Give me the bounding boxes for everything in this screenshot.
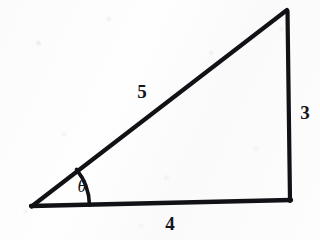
theta-angle-label: θ — [78, 177, 87, 195]
vertical-leg-label: 3 — [300, 103, 310, 122]
base-leg-label: 4 — [165, 214, 175, 233]
triangle-figure: 5 3 4 θ — [0, 0, 320, 240]
hypotenuse-line — [32, 10, 288, 207]
vertical-leg-line — [288, 11, 291, 201]
base-leg-line — [31, 200, 291, 206]
hypotenuse-label: 5 — [137, 82, 147, 101]
triangle-drawing — [0, 0, 320, 240]
